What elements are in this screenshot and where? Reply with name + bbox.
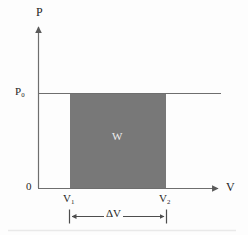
pv-diagram-canvas bbox=[0, 0, 248, 235]
p0-subscript: 0 bbox=[21, 91, 24, 98]
pressure-axis-label: P bbox=[36, 6, 43, 18]
v2-subscript: 2 bbox=[167, 198, 170, 205]
volume-axis-label: V bbox=[226, 181, 235, 193]
work-region-label: W bbox=[112, 131, 122, 142]
pv-diagram-figure: P V P0 0 V1 V2 ΔV W bbox=[0, 0, 248, 235]
p0-tick-label: P0 bbox=[15, 86, 25, 97]
origin-label: 0 bbox=[26, 181, 32, 192]
v2-tick-label: V2 bbox=[159, 193, 170, 204]
v1-base: V bbox=[63, 192, 71, 204]
v1-subscript: 1 bbox=[71, 198, 74, 205]
delta-v-label: ΔV bbox=[104, 208, 123, 219]
v2-base: V bbox=[159, 192, 167, 204]
v1-tick-label: V1 bbox=[63, 193, 74, 204]
